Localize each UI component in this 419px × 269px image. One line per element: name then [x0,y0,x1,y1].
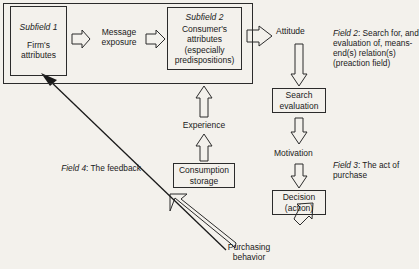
arrow-purchasing-behavior-feedback [170,194,236,248]
diagram-canvas: Subfield 1 Firm's attributes Subfield 2 … [0,0,419,269]
field-4-name: Field 4 [61,163,86,173]
purchasing-behavior-line1: Purchasing [218,242,280,252]
consumption-storage-line1: Consumption [179,165,229,175]
field-3-name: Field 3 [333,160,358,170]
subfield-2-box[interactable]: Subfield 2 Consumer's attributes (especi… [167,7,242,70]
search-evaluation-line1: Search [286,90,313,100]
message-exposure-line1: Message [89,27,149,37]
arrow-motivation-to-decision [291,164,307,188]
consumption-storage-line2: storage [190,176,218,186]
message-exposure-label: Message exposure [89,27,149,47]
purchasing-behavior-label: Purchasing behavior [218,242,280,262]
arrow-attitude-to-search-evaluation [291,44,307,86]
subfield-1-box[interactable]: Subfield 1 Firm's attributes [10,6,67,76]
motivation-label: Motivation [274,148,334,158]
field-4-text: : The feedback [86,163,141,173]
decision-line2: (action) [285,203,313,213]
arrow-consumption-storage-to-experience [196,134,212,161]
decision-box[interactable]: Decision (action) [272,190,326,215]
field-3-annotation: Field 3: The act of purchase [333,160,419,180]
arrow-search-evaluation-to-motivation [291,118,307,144]
subfield-1-header: Subfield 1 [20,22,58,32]
subfield-1-line1: Firm's [27,40,50,50]
consumption-storage-box[interactable]: Consumption storage [173,163,235,188]
subfield-2-line4: predispositions) [175,55,235,65]
attitude-label: Attitude [276,26,332,36]
subfield-2-line3: (especially [184,45,224,55]
field-4-annotation: Field 4: The feedback [58,163,144,173]
field-2-name: Field 2 [333,28,358,38]
subfield-2-line1: Consumer's [182,24,227,34]
search-evaluation-line2: evaluation [280,101,319,111]
field-2-annotation: Field 2: Search for, and evaluation of, … [333,28,419,68]
subfield-2-header: Subfield 2 [186,12,224,22]
purchasing-behavior-line2: behavior [218,252,280,262]
arrow-experience-to-subfield2 [196,86,212,117]
decision-line1: Decision [283,192,316,202]
subfield-1-line2: attributes [21,50,56,60]
experience-label: Experience [168,120,240,130]
search-evaluation-box[interactable]: Search evaluation [272,88,326,113]
message-exposure-line2: exposure [89,37,149,47]
subfield-2-line2: attributes [187,34,222,44]
